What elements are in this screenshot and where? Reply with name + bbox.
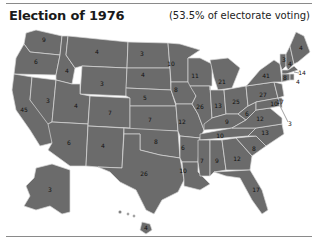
- label-pa: 27: [259, 91, 267, 98]
- bottom-rule: [6, 236, 312, 237]
- label-in: 13: [214, 102, 222, 109]
- label-me: 4: [299, 44, 303, 51]
- state-ks: [130, 106, 178, 131]
- label-la: 10: [179, 167, 187, 174]
- state-sd: [126, 68, 171, 90]
- label-sc: 8: [252, 145, 256, 152]
- label-ri: 4: [296, 78, 300, 85]
- label-ok: 8: [154, 138, 158, 145]
- label-az: 6: [67, 139, 71, 146]
- label-tn: 10: [216, 132, 224, 139]
- label-ny: 41: [262, 72, 270, 79]
- label-nc: 13: [261, 129, 269, 136]
- label-ks: 7: [148, 116, 152, 123]
- label-ga: 12: [233, 155, 241, 162]
- label-ms: 7: [200, 157, 204, 164]
- label-il: 26: [196, 103, 204, 110]
- label-ak: 3: [48, 186, 52, 193]
- label-wa: 9: [42, 36, 46, 43]
- label-id: 4: [65, 67, 69, 74]
- label-ut: 4: [74, 102, 78, 109]
- label-mo: 12: [178, 118, 186, 125]
- label-nj: 17: [276, 98, 284, 105]
- state-nm: [86, 126, 124, 168]
- state-ne: [126, 88, 176, 106]
- label-ar: 6: [181, 144, 185, 151]
- label-nd: 3: [140, 50, 144, 57]
- label-ca: 45: [20, 106, 28, 113]
- us-electoral-map: 9 6 45 4 3 4 3 4 6 7 4 3 4 5 7 8 26 10 8…: [0, 0, 318, 242]
- label-sd: 4: [141, 71, 145, 78]
- state-mi: [210, 58, 240, 90]
- label-dc: 3: [288, 120, 292, 127]
- label-wi: 11: [191, 72, 199, 79]
- label-ia: 8: [174, 86, 178, 93]
- label-nh: 4: [288, 60, 292, 67]
- state-ak: [24, 164, 70, 214]
- label-ct: 8: [283, 74, 287, 81]
- label-or: 6: [34, 58, 38, 65]
- label-tx: 26: [140, 170, 148, 177]
- label-nv: 3: [46, 97, 50, 104]
- label-mt: 4: [95, 48, 99, 55]
- label-ky: 9: [225, 118, 229, 125]
- label-wv: 6: [245, 110, 249, 117]
- state-ri: [290, 74, 294, 80]
- label-mi: 21: [218, 78, 226, 85]
- label-ma: 14: [298, 69, 306, 76]
- label-wy: 3: [100, 80, 104, 87]
- state-fl: [214, 170, 268, 214]
- label-va: 12: [256, 115, 264, 122]
- state-nd: [127, 42, 170, 68]
- label-ne: 5: [143, 94, 147, 101]
- label-nm: 4: [101, 142, 105, 149]
- label-hi: 4: [144, 224, 148, 231]
- label-oh: 25: [232, 98, 240, 105]
- label-al: 9: [215, 157, 219, 164]
- label-mn: 10: [167, 60, 175, 67]
- label-vt: 3: [282, 56, 286, 63]
- label-fl: 17: [252, 186, 260, 193]
- label-co: 7: [108, 109, 112, 116]
